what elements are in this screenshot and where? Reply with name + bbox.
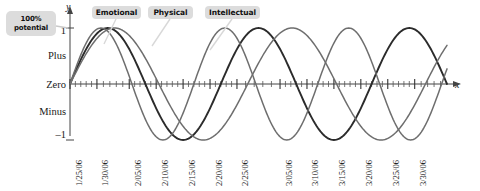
biorhythm-chart: 100% potential Emotional Physical Intell… (0, 0, 480, 191)
x-tick-label: 2/20/06 (214, 160, 224, 186)
x-tick-label: 1/25/06 (74, 160, 84, 186)
x-tick-label: 1/30/06 (100, 160, 110, 186)
x-tick-label: 2/15/06 (187, 160, 197, 186)
x-tick-label: 3/30/06 (418, 160, 428, 186)
legend-leader-physical (152, 19, 170, 46)
callout-leader-line (56, 26, 68, 28)
x-tick-label: 2/10/06 (160, 160, 170, 186)
x-tick-label: 3/25/06 (391, 160, 401, 186)
legend-leader-intellectual (210, 19, 232, 50)
x-tick-label: 2/25/06 (240, 160, 250, 186)
x-tick-label: 3/05/06 (284, 160, 294, 186)
x-tick-label: 3/15/06 (337, 160, 347, 186)
x-tick-label: 3/20/06 (364, 160, 374, 186)
x-tick-label: 3/10/06 (310, 160, 320, 186)
y-axis-arrow (67, 6, 73, 14)
x-axis-arrow (453, 81, 461, 87)
x-tick-label: 2/05/06 (133, 160, 143, 186)
